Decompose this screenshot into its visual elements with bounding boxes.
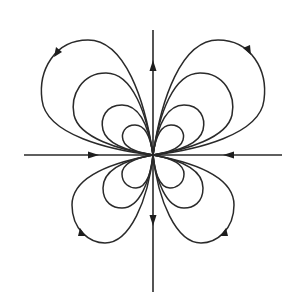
- upper-right-loops: [153, 40, 265, 155]
- lower-right-loops: [153, 155, 234, 243]
- lower-left-loops: [72, 155, 153, 243]
- arrow-right-icon: [88, 152, 99, 159]
- field-line-diagram: Dipole-like field line pattern (butterfl…: [0, 0, 304, 305]
- arrow-up-icon: [150, 60, 157, 71]
- loop-arrow-upper-right-icon: [243, 45, 251, 55]
- arrow-left-icon: [223, 152, 234, 159]
- field-loop: [72, 155, 153, 243]
- field-loop: [153, 155, 234, 243]
- arrow-down-icon: [150, 215, 157, 226]
- upper-left-loops: [41, 40, 153, 155]
- diagram-svg: [0, 0, 304, 305]
